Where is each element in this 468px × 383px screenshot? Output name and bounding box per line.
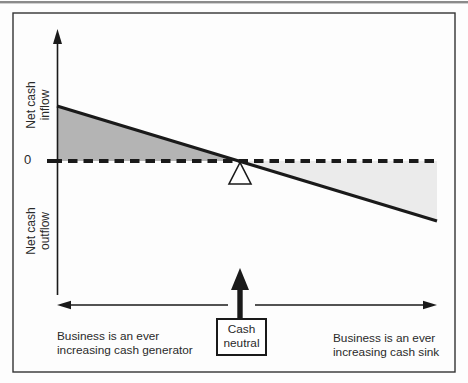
bold-up-arrowhead-icon <box>231 268 249 290</box>
up-arrowhead-icon <box>53 29 62 44</box>
cash-neutral-label: Cash neutral <box>217 322 266 350</box>
page-edge-line <box>0 1 468 3</box>
generator-direction-arrow <box>57 301 228 309</box>
left-arrowhead-icon <box>57 301 71 309</box>
zero-label: 0 <box>24 153 31 167</box>
sink-note: Business is an ever increasing cash sink <box>333 331 439 359</box>
inflow-axis-label: Net cash inflow <box>24 59 52 151</box>
generator-note: Business is an ever increasing cash gene… <box>57 329 193 357</box>
cash-flow-diagram: Net cash inflow Net cash outflow 0 Busin… <box>0 0 468 383</box>
outflow-axis-label: Net cash outflow <box>24 185 52 277</box>
right-arrowhead-icon <box>423 301 437 309</box>
pivot-triangle-icon <box>229 163 251 185</box>
bold-arrow-shaft <box>237 287 242 321</box>
sink-direction-arrow <box>255 301 437 309</box>
cash-neutral-pointer-arrow <box>231 268 249 321</box>
